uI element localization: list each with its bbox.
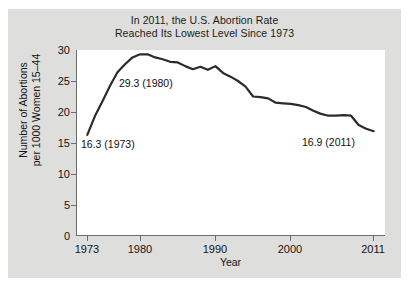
y-axis-title-line-1: Number of Abortions [17,30,30,190]
y-tick-label-20: 20 [44,107,70,118]
annotation-start-value: 16.3 (1973) [81,139,135,150]
x-tick-label-2011: 2011 [351,244,395,255]
chart-title-line-2: Reached Its Lowest Level Since 1973 [8,27,401,40]
y-axis-title-line-2: per 1000 Women 15–44 [30,30,43,190]
x-tick-mark-1980 [140,236,141,241]
annotation-peak-value: 29.3 (1980) [119,78,173,89]
x-tick-mark-1990 [215,236,216,241]
x-axis-title: Year [76,256,385,268]
x-tick-mark-2011 [373,236,374,241]
x-tick-mark-1973 [87,236,88,241]
x-tick-label-2000: 2000 [268,244,312,255]
y-tick-label-30: 30 [44,45,70,56]
y-tick-label-0: 0 [44,231,70,242]
x-tick-mark-2000 [290,236,291,241]
y-tick-label-5: 5 [44,200,70,211]
y-tick-label-25: 25 [44,76,70,87]
page-scan-artifact [0,284,412,296]
y-axis-title: Number of Abortions per 1000 Women 15–44 [17,30,43,190]
x-tick-label-1990: 1990 [193,244,237,255]
chart-figure: In 2011, the U.S. Abortion Rate Reached … [0,0,412,296]
x-tick-label-1980: 1980 [118,244,162,255]
abortion-rate-line [87,54,373,135]
x-tick-label-1973: 1973 [65,244,109,255]
annotation-end-value: 16.9 (2011) [302,137,355,148]
y-tick-label-15: 15 [44,138,70,149]
chart-title: In 2011, the U.S. Abortion Rate Reached … [8,14,401,39]
y-tick-label-10: 10 [44,169,70,180]
chart-title-line-1: In 2011, the U.S. Abortion Rate [8,14,401,27]
